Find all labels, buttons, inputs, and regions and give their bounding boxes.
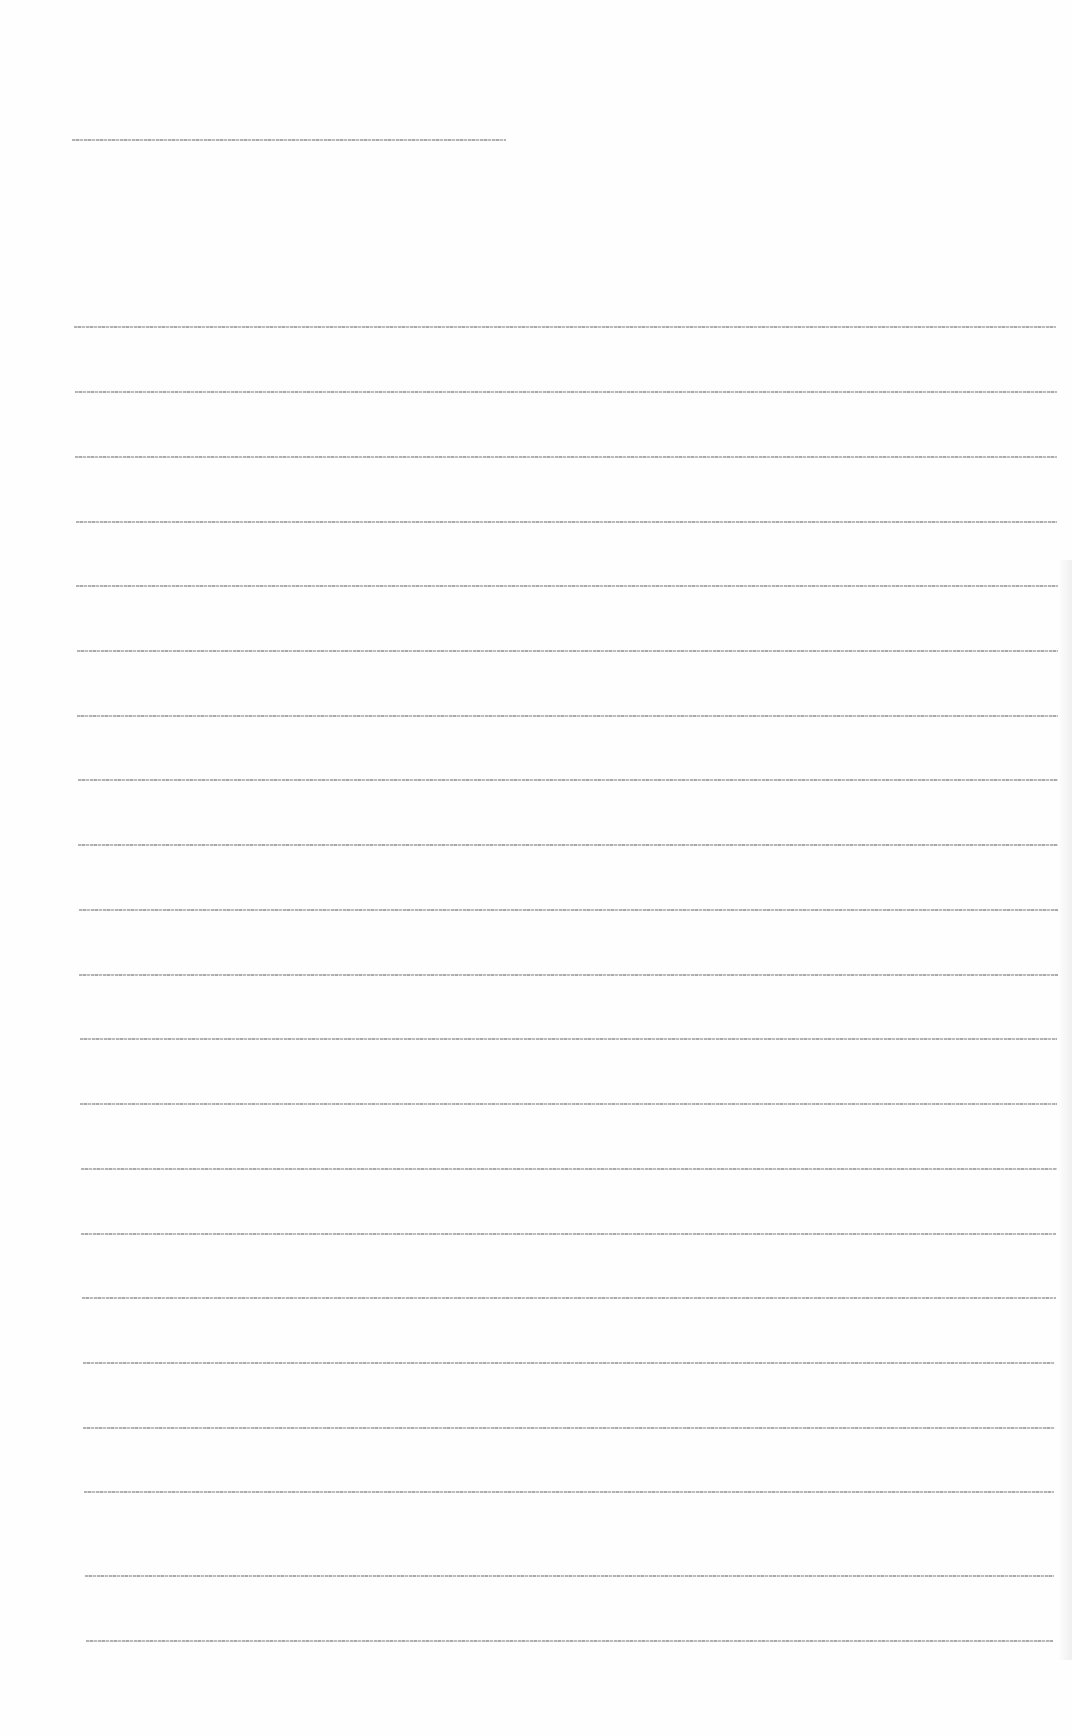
body-text-line: [illegible] [76,585,1058,587]
body-text-line: [illegible] [80,1103,1057,1105]
body-text-line: [illegible] [77,650,1058,652]
body-text-line: [illegible] [83,1362,1055,1364]
body-text-line: [illegible] [75,456,1057,458]
body-text-line: [illegible] [84,1491,1054,1493]
header-text-line: [illegible] [72,139,506,141]
body-text-line: [illegible] [79,974,1058,976]
page-edge-shadow [1058,560,1072,1660]
body-text-line: [illegible] [80,1038,1057,1040]
body-text-line: [illegible] [83,1427,1055,1429]
body-text-line: [illegible] [78,844,1058,846]
body-text-line: [illegible] [74,326,1056,328]
body-text-line: [illegible] [76,521,1057,523]
body-text-line: [illegible] [81,1233,1056,1235]
body-text-line: [illegible] [78,779,1058,781]
body-text-line: [illegible] [85,1575,1054,1577]
body-text-line: [illegible] [75,391,1057,393]
body-text-line: [illegible] [82,1297,1056,1299]
scanned-document-page: [illegible] [illegible][illegible][illeg… [0,0,1072,1736]
body-text-line: [illegible] [81,1168,1057,1170]
body-text-line: [illegible] [86,1640,1053,1642]
body-text-line: [illegible] [77,715,1058,717]
body-text-line: [illegible] [79,909,1058,911]
